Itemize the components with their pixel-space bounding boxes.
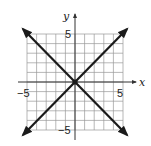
y-tick-neg5: −5: [58, 124, 71, 136]
y-axis-label: y: [62, 10, 70, 23]
y-tick-pos5: 5: [65, 28, 71, 40]
intersection-point: [72, 79, 77, 84]
x-tick-neg5: −5: [17, 87, 30, 99]
coordinate-graph: x y −5 5 5 −5: [0, 0, 151, 146]
x-tick-pos5: 5: [117, 87, 123, 99]
x-axis-label: x: [139, 76, 146, 89]
